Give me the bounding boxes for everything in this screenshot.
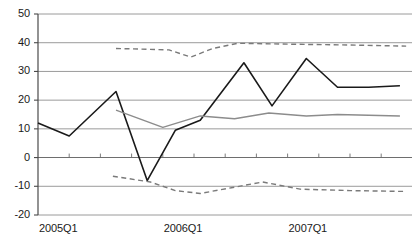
series-dashed-upper-series — [116, 43, 406, 57]
x-tick-label: 2005Q1 — [39, 222, 78, 234]
x-tick-label: 2006Q1 — [164, 222, 203, 234]
y-tick-label: 20 — [2, 93, 30, 105]
y-tick-label: 50 — [2, 7, 30, 19]
y-tick-label: -10 — [2, 179, 30, 191]
data-series-layer — [38, 43, 406, 193]
series-solid-black-series — [38, 59, 400, 181]
y-tick-label: 10 — [2, 122, 30, 134]
x-axis-tick-marks — [69, 154, 381, 158]
x-tick-label: 2007Q1 — [289, 222, 328, 234]
y-tick-label: -20 — [2, 208, 30, 220]
line-chart: 50403020100-10-20 2005Q12006Q12007Q1 — [0, 0, 419, 248]
y-tick-label: 40 — [2, 36, 30, 48]
series-solid-gray-series — [116, 110, 400, 127]
series-dashed-lower-series — [113, 176, 406, 193]
chart-plot-area — [0, 0, 419, 248]
y-tick-label: 0 — [2, 151, 30, 163]
y-tick-label: 30 — [2, 64, 30, 76]
